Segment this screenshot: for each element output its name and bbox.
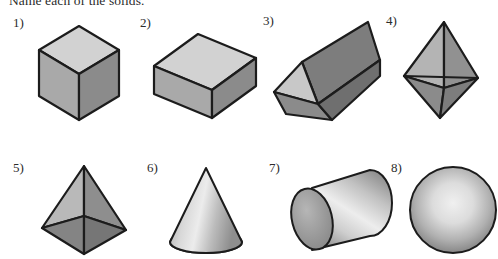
solid-figure-triangular-prism	[272, 18, 382, 122]
item-number-2: 2)	[140, 15, 151, 31]
solid-figure-cone	[167, 166, 245, 256]
sphere-body	[410, 167, 496, 253]
item-number-4: 4)	[386, 13, 397, 29]
solid-figure-octahedron	[400, 20, 482, 120]
solid-figure-cylinder	[282, 166, 392, 256]
solid-figure-sphere	[408, 164, 498, 256]
solid-figure-cube	[33, 24, 125, 122]
item-number-1: 1)	[13, 15, 24, 31]
solid-figure-rectangular-prism	[150, 30, 260, 122]
item-number-8: 8)	[391, 160, 402, 176]
solid-figure-square-pyramid	[38, 164, 130, 256]
item-number-7: 7)	[269, 160, 280, 176]
worksheet-prompt: Name each of the solids.	[9, 0, 144, 9]
cone-body	[170, 168, 242, 253]
item-number-5: 5)	[13, 160, 24, 176]
item-number-6: 6)	[147, 160, 158, 176]
